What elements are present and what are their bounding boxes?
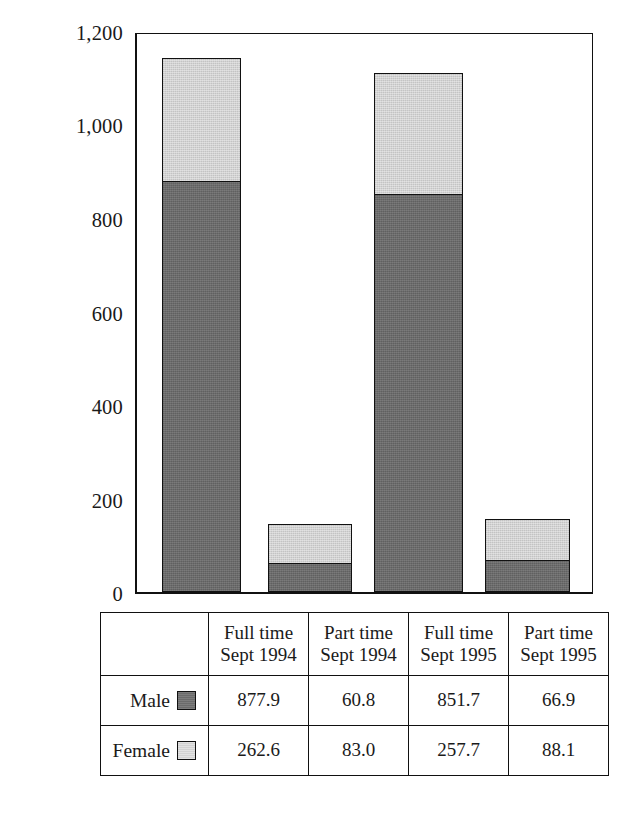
- header-line-2: Sept 1995: [511, 644, 606, 666]
- table-row-female: Female 262.6 83.0 257.7 88.1: [101, 726, 609, 776]
- cell-female-part-time-1994: 83.0: [309, 726, 409, 776]
- table-header-row: Full time Sept 1994 Part time Sept 1994 …: [101, 613, 609, 676]
- bar-segment-male-part-time-1995: [485, 560, 570, 592]
- y-tick-label-200: 200: [92, 491, 123, 512]
- y-tick-label-800: 800: [92, 210, 123, 231]
- cell-male-full-time-1995: 851.7: [409, 676, 509, 726]
- cell-male-part-time-1995: 66.9: [509, 676, 609, 726]
- row-label-female-cell: Female: [101, 726, 209, 776]
- row-label-male-cell: Male: [101, 676, 209, 726]
- cell-female-part-time-1995: 88.1: [509, 726, 609, 776]
- bar-segment-female-full-time-1994: [162, 58, 241, 182]
- header-line-1: Part time: [511, 622, 606, 644]
- table-header-full-time-1994: Full time Sept 1994: [209, 613, 309, 676]
- row-label-male: Male: [130, 689, 170, 712]
- table-header-full-time-1995: Full time Sept 1995: [409, 613, 509, 676]
- header-line-1: Full time: [211, 622, 306, 644]
- bar-group-full-time-sept-1994: [162, 59, 241, 592]
- cutoff-caption-text: [0, 806, 617, 819]
- table-header-part-time-1994: Part time Sept 1994: [309, 613, 409, 676]
- bar-segment-male-full-time-1994: [162, 181, 241, 592]
- table-row-male: Male 877.9 60.8 851.7 66.9: [101, 676, 609, 726]
- bar-group-full-time-sept-1995: [374, 73, 463, 592]
- row-label-female: Female: [113, 739, 170, 762]
- y-tick-label-400: 400: [92, 397, 123, 418]
- male-swatch-icon: [177, 691, 196, 710]
- cell-male-part-time-1994: 60.8: [309, 676, 409, 726]
- y-tick-label-1200: 1,200: [76, 23, 123, 44]
- bar-segment-male-full-time-1995: [374, 194, 463, 592]
- female-swatch-icon: [177, 741, 196, 760]
- y-axis: 1,200 1,000 800 600 400 200 0: [0, 0, 135, 600]
- bar-group-part-time-sept-1994: [268, 524, 352, 592]
- bar-segment-female-full-time-1995: [374, 73, 463, 195]
- bar-segment-male-part-time-1994: [268, 563, 352, 592]
- table-header-part-time-1995: Part time Sept 1995: [509, 613, 609, 676]
- cell-female-full-time-1995: 257.7: [409, 726, 509, 776]
- header-line-1: Full time: [411, 622, 506, 644]
- bar-segment-female-part-time-1994: [268, 524, 352, 564]
- bar-group-part-time-sept-1995: [485, 519, 570, 592]
- header-line-2: Sept 1995: [411, 644, 506, 666]
- y-tick-label-0: 0: [113, 584, 123, 605]
- y-tick-label-1000: 1,000: [76, 116, 123, 137]
- stacked-bar-chart: 1,200 1,000 800 600 400 200 0: [0, 0, 617, 600]
- data-table: Full time Sept 1994 Part time Sept 1994 …: [100, 612, 609, 776]
- cell-female-full-time-1994: 262.6: [209, 726, 309, 776]
- header-line-1: Part time: [311, 622, 406, 644]
- plot-area: [135, 33, 593, 594]
- table-corner-cell: [101, 613, 209, 676]
- header-line-2: Sept 1994: [211, 644, 306, 666]
- y-tick-label-600: 600: [92, 304, 123, 325]
- header-line-2: Sept 1994: [311, 644, 406, 666]
- bar-segment-female-part-time-1995: [485, 519, 570, 561]
- cell-male-full-time-1994: 877.9: [209, 676, 309, 726]
